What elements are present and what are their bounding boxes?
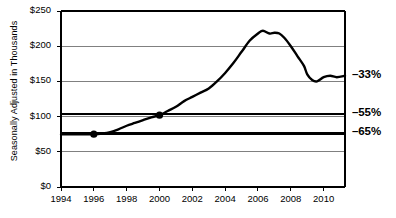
- marker-2000: [156, 112, 163, 119]
- plot-area: [0, 0, 396, 218]
- plot-frame: [61, 11, 345, 187]
- chart-container: Seasonally Adjusted in Thousands $0$50$1…: [0, 0, 396, 218]
- marker-1996: [90, 131, 97, 138]
- gridlines: [61, 11, 345, 152]
